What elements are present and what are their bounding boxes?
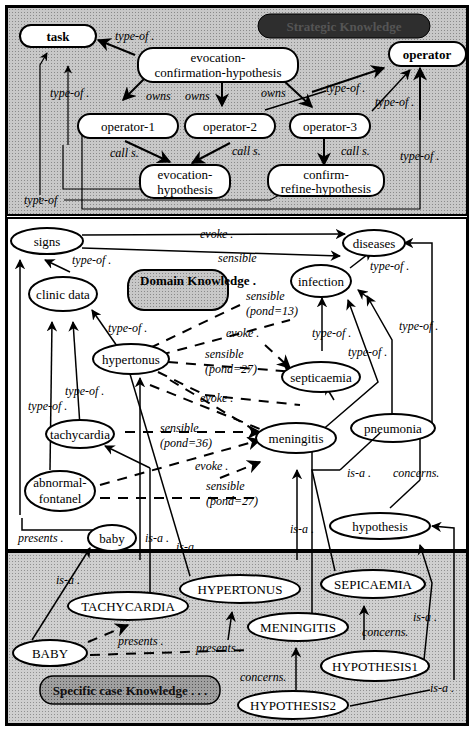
svg-text:refine-hypothesis: refine-hypothesis	[281, 181, 371, 196]
edge-label-sensible: sensible	[218, 251, 257, 265]
node-BABY[interactable]: BABY	[13, 640, 87, 666]
node-operator-1[interactable]: operator-1	[78, 114, 178, 138]
edge-label-sensible: sensible	[160, 421, 199, 435]
svg-text:infection: infection	[298, 274, 345, 289]
edge-label-type-of: type-of .	[28, 399, 67, 413]
edge-label-pond13: (pond=13)	[246, 304, 298, 318]
node-operator-3[interactable]: operator-3	[290, 114, 370, 138]
svg-text:evocation-: evocation-	[158, 167, 213, 182]
edge-label-presents: presents .	[195, 641, 242, 655]
edge-label-calls: call s.	[232, 144, 261, 158]
edge-label-is-a: is-a .	[56, 573, 80, 587]
node-task[interactable]: task	[20, 25, 96, 47]
edge-label-type-of: type-of .	[348, 345, 387, 359]
edge-label-concerns: concerns.	[362, 625, 408, 639]
edge-label-concerns: concerns.	[393, 466, 439, 480]
edge-label-type-of: type-of .	[375, 95, 414, 109]
specific-knowledge-label: Specific case Knowledge . . .	[53, 683, 208, 698]
svg-text:pneumonia: pneumonia	[364, 421, 422, 436]
svg-text:signs: signs	[34, 234, 61, 249]
svg-text:septicaemia: septicaemia	[290, 370, 352, 385]
edge-label-is-a: is-a .	[430, 681, 454, 695]
svg-text:tachycardia: tachycardia	[50, 427, 110, 442]
svg-text:operator-3: operator-3	[303, 119, 357, 134]
node-baby[interactable]: baby	[88, 525, 136, 551]
node-meningitis[interactable]: meningitis	[256, 423, 336, 453]
node-MENINGITIS[interactable]: MENINGITIS	[248, 613, 348, 641]
strategic-knowledge-label: Strategic Knowledge	[286, 19, 401, 34]
svg-text:confirm-: confirm-	[303, 167, 348, 182]
svg-text:operator-1: operator-1	[101, 119, 155, 134]
node-signs[interactable]: signs	[11, 228, 83, 254]
svg-text:meningitis: meningitis	[269, 431, 324, 446]
edge-label-pond27: (pond=27)	[206, 494, 258, 508]
node-TACHYCARDIA[interactable]: TACHYCARDIA	[68, 592, 188, 620]
svg-text:abnormal-: abnormal-	[33, 475, 86, 490]
edge-label-is-a: is-a .	[145, 531, 169, 545]
node-infection[interactable]: infection	[291, 265, 351, 297]
edge-label-is-a: is-a .	[347, 466, 371, 480]
edge-label-type-of: type-of .	[115, 29, 154, 43]
node-abnormal-fontanel[interactable]: abnormal- fontanel	[25, 471, 95, 511]
edge-label-sensible: sensible	[206, 479, 245, 493]
svg-text:baby: baby	[99, 531, 125, 546]
edge-label-pond27: (pond=27)	[205, 362, 257, 376]
svg-text:SEPICAEMIA: SEPICAEMIA	[334, 577, 413, 592]
knowledge-diagram: Strategic Knowledge Specific case Knowle…	[0, 0, 474, 731]
edge-label-presents: presents .	[17, 531, 64, 545]
node-hypothesis[interactable]: hypothesis	[330, 513, 430, 539]
edge-label-calls: call s.	[341, 144, 370, 158]
svg-text:confirmation-hypothesis: confirmation-hypothesis	[154, 65, 281, 80]
svg-text:diseases: diseases	[353, 236, 396, 251]
edge-label-type-of: type-of .	[370, 259, 409, 273]
node-hypertonus[interactable]: hypertonus	[93, 344, 169, 374]
node-HYPOTHESIS1[interactable]: HYPOTHESIS1	[321, 651, 429, 681]
node-diseases[interactable]: diseases	[343, 230, 405, 256]
node-SEPICAEMIA[interactable]: SEPICAEMIA	[321, 570, 425, 598]
edge-label-type-of: type-of	[24, 193, 59, 207]
svg-text:hypertonus: hypertonus	[102, 352, 160, 367]
svg-text:HYPOTHESIS2: HYPOTHESIS2	[250, 698, 336, 713]
edge-label-is-a: is-a .	[290, 522, 314, 536]
svg-text:evocation-: evocation-	[191, 50, 246, 65]
node-evocation-hypothesis[interactable]: evocation- hypothesis	[140, 165, 230, 198]
edge-label-owns: owns	[185, 89, 210, 103]
svg-text:HYPERTONUS: HYPERTONUS	[198, 582, 283, 597]
edge-label-type-of: type-of .	[400, 149, 439, 163]
edge-label-type-of: type-of .	[399, 319, 438, 333]
edge-label-evoke: evoke .	[200, 227, 233, 241]
node-confirm-refine-hypothesis[interactable]: confirm- refine-hypothesis	[268, 165, 384, 196]
svg-text:clinic data: clinic data	[36, 287, 90, 302]
edge-label-evoke: evoke .	[226, 326, 259, 340]
node-tachycardia[interactable]: tachycardia	[46, 420, 114, 448]
svg-text:BABY: BABY	[32, 646, 69, 661]
edge-label-calls: call s.	[110, 146, 139, 160]
node-clinic-data[interactable]: clinic data	[29, 277, 97, 311]
edge-label-pond36: (pond=36)	[160, 436, 212, 450]
node-HYPOTHESIS2[interactable]: HYPOTHESIS2	[238, 691, 348, 719]
edge-label-type-of: type-of .	[326, 81, 365, 95]
edge-label-sensible: sensible	[205, 347, 244, 361]
node-evocation-confirmation-hypothesis[interactable]: evocation- confirmation-hypothesis	[138, 48, 298, 82]
node-pneumonia[interactable]: pneumonia	[351, 414, 435, 442]
node-operator[interactable]: operator	[389, 42, 466, 66]
node-HYPERTONUS[interactable]: HYPERTONUS	[180, 575, 300, 603]
edge-label-evoke: evoke .	[200, 391, 233, 405]
node-septicaemia[interactable]: septicaemia	[282, 362, 360, 392]
domain-knowledge-label: Domain Knowledge .	[140, 273, 256, 288]
node-operator-2[interactable]: operator-2	[185, 114, 275, 138]
edge-label-owns: owns	[261, 86, 286, 100]
svg-text:MENINGITIS: MENINGITIS	[260, 620, 336, 635]
edge-label-type-of: type-of .	[72, 253, 111, 267]
edge-label-type-of: type-of .	[65, 384, 104, 398]
svg-text:HYPOTHESIS1: HYPOTHESIS1	[332, 659, 418, 674]
svg-text:operator: operator	[403, 47, 452, 62]
edge-label-type-of: type-of .	[312, 326, 351, 340]
edge-label-is-a: is-a .	[413, 610, 437, 624]
edge-label-type-of: type-of .	[108, 321, 147, 335]
edge-label-owns: owns	[146, 89, 171, 103]
svg-text:hypothesis: hypothesis	[352, 519, 408, 534]
edge-label-concerns: concerns.	[240, 670, 286, 684]
svg-text:TACHYCARDIA: TACHYCARDIA	[81, 599, 175, 614]
edge-label-type-of: type-of .	[50, 86, 89, 100]
